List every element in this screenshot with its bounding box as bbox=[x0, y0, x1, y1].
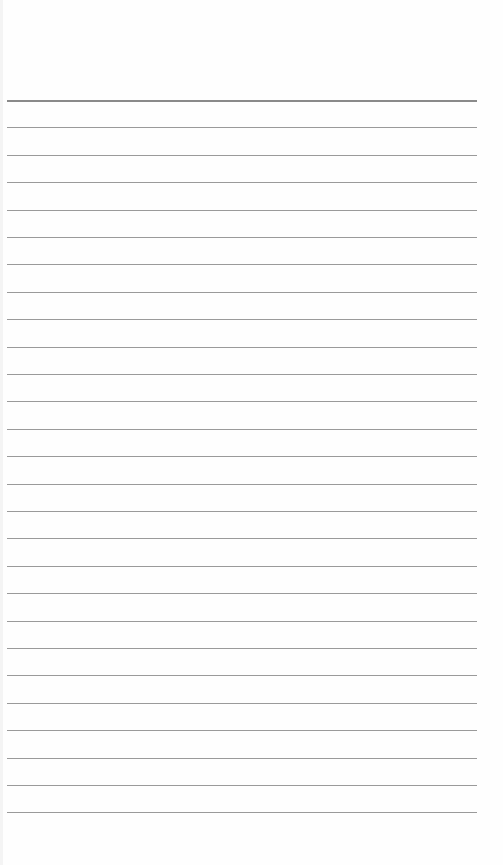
rule-line bbox=[7, 621, 477, 622]
header-rule-line bbox=[7, 100, 477, 102]
rule-line bbox=[7, 319, 477, 320]
rule-line bbox=[7, 511, 477, 512]
rule-line bbox=[7, 210, 477, 211]
rule-line bbox=[7, 675, 477, 676]
rule-line bbox=[7, 758, 477, 759]
rule-line bbox=[7, 182, 477, 183]
rule-line bbox=[7, 127, 477, 128]
rule-line bbox=[7, 292, 477, 293]
rule-line bbox=[7, 648, 477, 649]
rule-line bbox=[7, 484, 477, 485]
rule-line bbox=[7, 347, 477, 348]
rule-line bbox=[7, 566, 477, 567]
rule-line bbox=[7, 812, 477, 813]
lined-paper-sheet bbox=[0, 0, 503, 865]
rule-line bbox=[7, 374, 477, 375]
rule-line bbox=[7, 155, 477, 156]
rule-line bbox=[7, 264, 477, 265]
rule-line bbox=[7, 703, 477, 704]
rule-line bbox=[7, 401, 477, 402]
rule-line bbox=[7, 429, 477, 430]
rule-line bbox=[7, 538, 477, 539]
rule-line bbox=[7, 730, 477, 731]
rule-line bbox=[7, 237, 477, 238]
rule-line bbox=[7, 785, 477, 786]
rule-line bbox=[7, 456, 477, 457]
rule-line bbox=[7, 593, 477, 594]
sheet-edge bbox=[0, 0, 3, 865]
